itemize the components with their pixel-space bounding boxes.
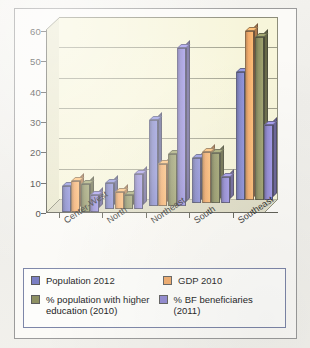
x-axis-tick <box>102 213 103 218</box>
y-axis-tick-label: 20 <box>30 147 41 158</box>
y-axis-tick-label: 60 <box>30 26 41 37</box>
bar <box>221 177 230 203</box>
y-axis-tick <box>41 92 46 93</box>
bar <box>236 72 245 201</box>
bar-face <box>158 164 167 206</box>
legend-row: Population 2012 GDP 2010 <box>31 275 278 287</box>
bar-face <box>255 37 264 201</box>
bar <box>149 120 158 206</box>
y-axis-tick <box>41 183 46 184</box>
legend-item-population-2012: Population 2012 <box>31 275 163 287</box>
bar <box>124 195 133 209</box>
y-axis-tick-label: 50 <box>30 56 41 67</box>
bar <box>202 152 211 204</box>
x-axis-tick <box>59 213 60 218</box>
y-axis-tick-label: 30 <box>30 117 41 128</box>
bar-group <box>92 17 138 213</box>
y-axis-tick-label: 10 <box>30 177 41 188</box>
bar-series-container <box>46 17 278 213</box>
y-axis-tick <box>41 31 46 32</box>
legend-row: % population with higher education (2010… <box>31 294 278 317</box>
bar <box>245 31 254 201</box>
legend-label-bf-beneficiaries: % BF beneficiaries (2011) <box>174 294 278 317</box>
legend-item-gdp-2010: GDP 2010 <box>163 275 222 287</box>
bar-group <box>185 17 231 213</box>
y-axis-tick <box>41 122 46 123</box>
bar-side <box>273 117 277 197</box>
bar <box>264 125 273 201</box>
legend-item-higher-education: % population with higher education (2010… <box>31 294 159 317</box>
bar-face <box>221 177 230 203</box>
bar-chart: 0102030405060 Center-WestNor <box>17 11 294 259</box>
bar-face <box>211 153 220 203</box>
legend-swatch-population-2012 <box>31 276 40 285</box>
y-axis-tick-label: 40 <box>30 86 41 97</box>
bar <box>158 164 167 206</box>
bar <box>192 158 201 204</box>
plot-area <box>46 17 278 213</box>
scanned-page: 0102030405060 Center-WestNor <box>0 0 310 348</box>
legend-label-gdp-2010: GDP 2010 <box>178 275 222 287</box>
bar-face <box>124 195 133 209</box>
legend-swatch-gdp-2010 <box>163 276 172 285</box>
legend-label-population-2012: Population 2012 <box>46 275 115 287</box>
legend-swatch-bf-beneficiaries <box>159 295 168 304</box>
y-axis-labels: 0102030405060 <box>17 11 41 259</box>
bar-group <box>139 17 185 213</box>
bar-face <box>192 158 201 204</box>
legend-swatch-higher-education <box>31 295 40 304</box>
legend-label-higher-education: % population with higher education (2010… <box>46 294 159 317</box>
x-axis-tick <box>189 213 190 218</box>
bar-group <box>232 17 278 213</box>
chart-figure: 0102030405060 Center-WestNor <box>14 8 297 339</box>
y-axis-tick <box>41 152 46 153</box>
x-axis-tick <box>233 213 234 218</box>
chart-legend: Population 2012 GDP 2010 % population wi… <box>23 268 286 328</box>
x-axis-category-labels: Center-WestNorthNortheastSouthSoutheast <box>46 217 278 261</box>
y-axis-tick <box>41 61 46 62</box>
bar-face <box>264 125 273 201</box>
bar-face <box>62 186 71 212</box>
bar-face <box>236 72 245 201</box>
bar <box>62 186 71 212</box>
x-axis-tick <box>146 213 147 218</box>
legend-item-bf-beneficiaries: % BF beneficiaries (2011) <box>159 294 278 317</box>
bar-group <box>46 17 92 213</box>
bar-face <box>202 152 211 204</box>
bar-face <box>245 31 254 201</box>
bar-face <box>149 120 158 206</box>
y-axis-tick <box>41 213 46 214</box>
bar <box>255 37 264 201</box>
bar <box>211 153 220 203</box>
